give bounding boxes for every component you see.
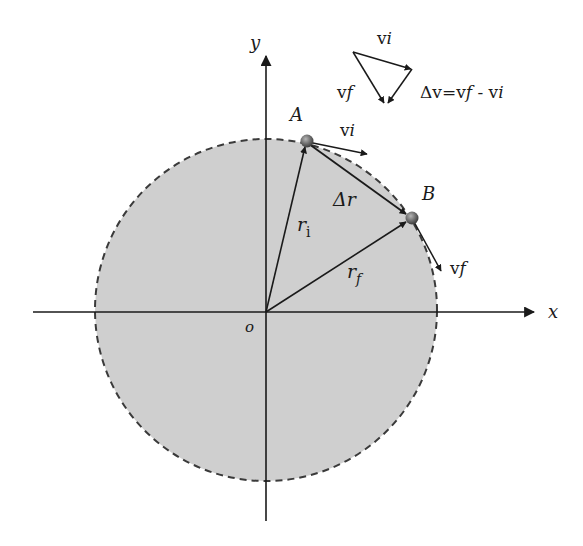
point-a-label: A [288, 104, 303, 125]
triangle-delta-v-vector [388, 69, 412, 103]
particle-b [406, 212, 419, 225]
v-final-label: vf [449, 258, 469, 278]
origin-label: o [245, 318, 254, 336]
velocity-triangle: vi vf Δv=vf - vi [336, 28, 504, 103]
x-axis-label: x [548, 301, 558, 322]
triangle-vf-label: vf [336, 82, 356, 102]
point-b-label: B [421, 183, 435, 204]
delta-r-label: Δr [332, 188, 358, 210]
circular-motion-diagram: x y o ri rf Δr vi vf A B vi vf [0, 0, 583, 546]
delta-v-equation: Δv=vf - vi [420, 82, 504, 102]
y-axis-label: y [249, 32, 261, 53]
v-initial-label: vi [339, 120, 355, 140]
triangle-vi-label: vi [376, 28, 392, 48]
particle-a [301, 135, 314, 148]
